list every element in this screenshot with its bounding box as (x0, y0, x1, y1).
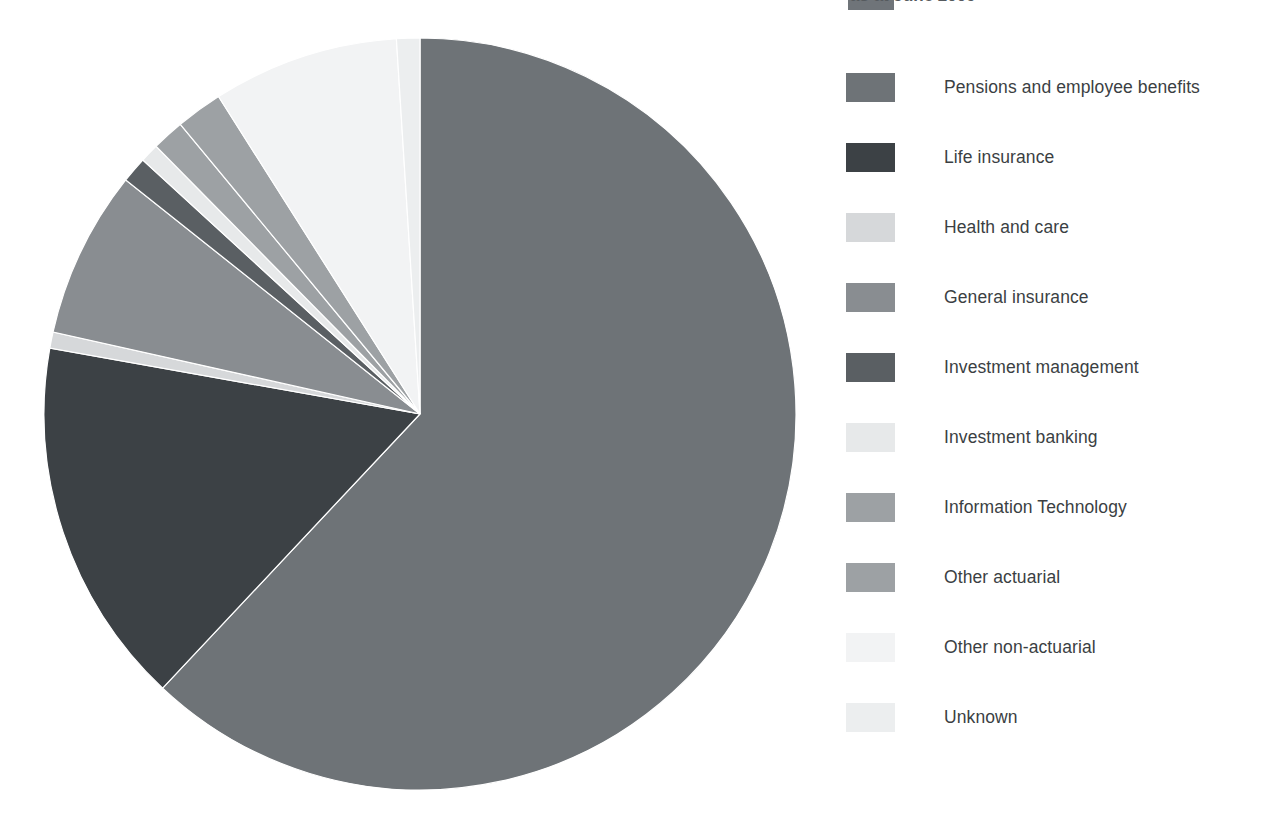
pie-chart-svg (0, 0, 840, 813)
legend-item[interactable]: Other actuarial (846, 542, 1270, 612)
legend-item[interactable]: Investment banking (846, 402, 1270, 472)
legend-item-label: Pensions and employee benefits (944, 77, 1200, 98)
legend-swatch-icon (846, 703, 895, 732)
legend-item[interactable]: Other non-actuarial (846, 612, 1270, 682)
legend-item-label: Other actuarial (944, 567, 1060, 588)
legend-swatch-icon (846, 353, 895, 382)
legend-item-label: Other non-actuarial (944, 637, 1096, 658)
legend-item-label: Health and care (944, 217, 1069, 238)
legend-item[interactable]: General insurance (846, 262, 1270, 332)
legend-item[interactable]: Unknown (846, 682, 1270, 752)
legend-swatch-icon (846, 143, 895, 172)
legend-item-label: Information Technology (944, 497, 1127, 518)
chart-legend: Pensions and employee benefitsLife insur… (846, 52, 1270, 752)
chart-title: as at June 2009 (850, 0, 976, 6)
legend-swatch-icon (846, 493, 895, 522)
legend-item-label: General insurance (944, 287, 1089, 308)
legend-swatch-icon (846, 423, 895, 452)
legend-swatch-icon (846, 563, 895, 592)
legend-swatch-icon (846, 213, 895, 242)
legend-swatch-icon (846, 73, 895, 102)
legend-item-label: Unknown (944, 707, 1018, 728)
legend-item[interactable]: Information Technology (846, 472, 1270, 542)
chart-page: as at June 2009 Pensions and employee be… (0, 0, 1270, 813)
legend-item-label: Investment banking (944, 427, 1098, 448)
legend-item[interactable]: Life insurance (846, 122, 1270, 192)
legend-swatch-icon (846, 633, 895, 662)
legend-item[interactable]: Pensions and employee benefits (846, 52, 1270, 122)
legend-swatch-icon (846, 283, 895, 312)
legend-item-label: Life insurance (944, 147, 1054, 168)
legend-item-label: Investment management (944, 357, 1139, 378)
legend-item[interactable]: Investment management (846, 332, 1270, 402)
pie-chart (0, 0, 840, 813)
legend-item[interactable]: Health and care (846, 192, 1270, 262)
